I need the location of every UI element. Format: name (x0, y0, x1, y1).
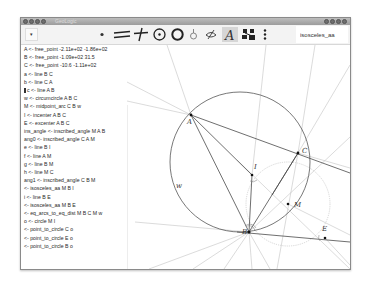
step-item[interactable]: o <- circle M I (21, 217, 127, 225)
construction-drawing[interactable]: A B C I M E w (127, 45, 350, 269)
step-item[interactable]: i <- line B E (21, 193, 127, 201)
step-item[interactable]: C <- free_point -10.6 -1.11e+02 (21, 61, 127, 69)
step-item[interactable]: a <- line B C (21, 70, 127, 78)
network-icon (241, 27, 257, 42)
construction-steps-list[interactable]: A <- free_point -2.11e+02 -1.86e+02 B <-… (21, 45, 128, 269)
circle-tool-button[interactable] (170, 27, 185, 42)
step-item[interactable]: <- point_to_circle B o (21, 242, 127, 250)
point-i[interactable] (251, 174, 254, 177)
step-item[interactable]: <- isosceles_aa M B E (21, 201, 127, 209)
hide-tool-button[interactable] (188, 27, 199, 42)
minimize-button-right[interactable] (330, 19, 335, 24)
label-c: C (302, 147, 308, 155)
point-b[interactable] (247, 230, 250, 233)
window-controls-right (324, 19, 347, 24)
window-menu-button[interactable] (41, 19, 46, 24)
step-item[interactable]: <- isosceles_aa M B I (21, 184, 127, 192)
title-bar: GeoLogic (21, 18, 350, 25)
window-controls-left (23, 19, 46, 24)
point-m[interactable] (287, 203, 290, 206)
label-m: M (293, 201, 302, 209)
light-bulb-icon (188, 27, 199, 42)
toolbar: ▾ (21, 25, 350, 45)
label-w: w (176, 182, 182, 190)
step-item[interactable]: ang0 <- inscribed_angle C A M (21, 135, 127, 143)
step-item[interactable]: <- point_to_circle E o (21, 234, 127, 242)
point-a[interactable] (190, 114, 193, 117)
auxiliary-lines (127, 45, 350, 269)
circle-center-icon (152, 27, 167, 42)
label-i: I (253, 163, 257, 171)
step-item[interactable]: e <- line B I (21, 143, 127, 151)
point-e[interactable] (324, 237, 327, 240)
step-item[interactable]: b <- line C A (21, 78, 127, 86)
visibility-tool-button[interactable] (204, 27, 218, 42)
label-a-icon: A (222, 27, 238, 42)
step-item[interactable]: I <- incenter A B C (21, 111, 127, 119)
label-tool-button[interactable]: A (222, 27, 238, 42)
point-tool-button[interactable] (97, 27, 107, 42)
minimize-button[interactable] (29, 19, 34, 24)
reasoning-tool-button[interactable] (241, 27, 257, 42)
more-options-button[interactable] (261, 27, 269, 42)
step-item[interactable]: B <- free_point -1.09e+02 31.5 (21, 53, 127, 61)
step-item[interactable]: M <- midpoint_arc C B w (21, 102, 127, 110)
step-item[interactable]: g <- line B M (21, 160, 127, 168)
step-item[interactable]: f <- line A M (21, 152, 127, 160)
label-e: E (321, 225, 327, 233)
step-item[interactable]: E <- excenter A B C (21, 119, 127, 127)
text-cursor (24, 88, 26, 93)
step-item[interactable]: A <- free_point -2.11e+02 -1.86e+02 (21, 45, 127, 53)
step-item-selected[interactable]: c <- line A B (21, 86, 127, 94)
parallel-lines-icon (113, 27, 131, 42)
step-item[interactable]: <- point_to_circle C o (21, 225, 127, 233)
circle-center-tool-button[interactable] (152, 27, 167, 42)
step-item[interactable]: ins_angle <- inscribed_angle M A B (21, 127, 127, 135)
menu-dropdown-button[interactable]: ▾ (25, 28, 38, 41)
step-item[interactable]: ang1 <- inscribed_angle C B M (21, 176, 127, 184)
parallel-tool-button[interactable] (113, 27, 131, 42)
svg-text:A: A (224, 28, 234, 43)
point-c[interactable] (297, 152, 300, 155)
circle-icon (170, 27, 185, 42)
maximize-button[interactable] (35, 19, 40, 24)
label-b: B (241, 228, 247, 236)
point-icon (97, 27, 107, 42)
perpendicular-icon (133, 27, 149, 42)
points (190, 114, 327, 240)
step-item-text: c <- line A B (27, 87, 55, 93)
eye-slash-icon (204, 27, 218, 42)
close-button[interactable] (23, 19, 28, 24)
chevron-down-icon: ▾ (30, 31, 33, 37)
step-item[interactable]: w <- circumcircle A B C (21, 94, 127, 102)
maximize-button-right[interactable] (336, 19, 341, 24)
more-vertical-icon (261, 27, 269, 42)
close-button-right[interactable] (342, 19, 347, 24)
construction-name-input[interactable] (296, 26, 348, 43)
app-window: GeoLogic ▾ (20, 17, 351, 270)
label-a: A (186, 118, 192, 126)
window-menu-button-right[interactable] (324, 19, 329, 24)
geometry-canvas[interactable]: A B C I M E w (127, 45, 350, 269)
step-item[interactable]: <- eq_arcs_to_eq_dist M B C M w (21, 209, 127, 217)
window-title: GeoLogic (55, 18, 76, 25)
step-item[interactable]: h <- line M C (21, 168, 127, 176)
perpendicular-tool-button[interactable] (133, 27, 149, 42)
